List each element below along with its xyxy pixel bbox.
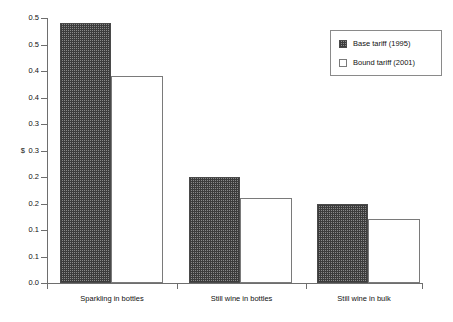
bar-bound-tariff — [240, 198, 292, 283]
legend-swatch-white-icon — [339, 59, 347, 67]
bar-base-tariff — [317, 204, 368, 284]
y-tick-label: 0.1 — [0, 226, 39, 234]
bar-base-tariff — [60, 23, 111, 283]
legend-swatch-checkered-icon — [339, 40, 347, 48]
legend-item-base-tariff: Base tariff (1995) — [339, 39, 410, 48]
y-tick-label: 0.5 — [0, 14, 39, 22]
x-category-label: Sparkling in bottles — [52, 294, 172, 303]
bar-bound-tariff — [111, 76, 163, 283]
y-tick-label: 0.0 — [0, 279, 39, 287]
y-axis-unit-label: $ — [0, 147, 25, 155]
x-axis-line — [47, 283, 423, 284]
bar-base-tariff — [189, 177, 240, 283]
y-tick-label: 0.5 — [0, 41, 39, 49]
x-axis-separator — [422, 283, 423, 289]
x-category-label: Still wine in bottles — [182, 294, 302, 303]
y-tick-label: 0.1 — [0, 253, 39, 261]
x-axis-separator — [47, 283, 48, 289]
legend: Base tariff (1995) Bound tariff (2001) — [330, 30, 442, 76]
legend-item-bound-tariff: Bound tariff (2001) — [339, 58, 415, 67]
bar-chart: 0.50.50.40.40.30.3$0.20.20.10.10.0 Spark… — [0, 0, 453, 322]
y-tick-label: 0.2 — [0, 173, 39, 181]
legend-label-bound-tariff: Bound tariff (2001) — [353, 58, 415, 67]
x-axis-separator — [306, 283, 307, 289]
y-tick-label: 0.4 — [0, 94, 39, 102]
bar-bound-tariff — [368, 219, 420, 283]
x-axis-separator — [177, 283, 178, 289]
legend-label-base-tariff: Base tariff (1995) — [353, 39, 410, 48]
y-tick-label: 0.4 — [0, 67, 39, 75]
y-tick-label: 0.2 — [0, 200, 39, 208]
x-category-label: Still wine in bulk — [304, 294, 424, 303]
y-tick-label: 0.3 — [0, 120, 39, 128]
